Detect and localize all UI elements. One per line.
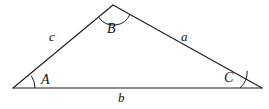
side-c-line (13, 5, 113, 88)
side-label-a: a (181, 30, 188, 43)
vertex-label-B: B (107, 22, 116, 36)
side-label-b: b (118, 91, 125, 104)
angle-arc-A (31, 76, 35, 88)
triangle-drawing (0, 0, 269, 109)
side-label-c: c (49, 30, 55, 43)
vertex-label-C: C (224, 71, 233, 85)
angle-arc-C (240, 71, 247, 88)
side-a-line (113, 5, 262, 88)
vertex-label-A: A (41, 73, 50, 87)
triangle-figure: A B C a b c (0, 0, 269, 109)
